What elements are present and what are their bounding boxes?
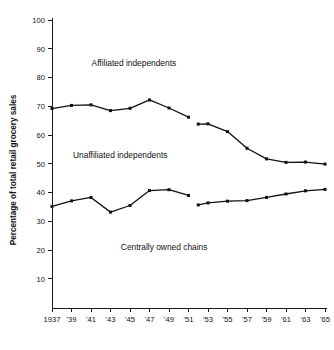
data-point <box>187 116 190 119</box>
y-axis-tick-label: 30 <box>37 217 45 226</box>
data-point <box>90 196 93 199</box>
data-point <box>168 107 171 110</box>
data-point <box>285 193 288 196</box>
data-point <box>148 98 151 101</box>
data-point <box>304 161 307 164</box>
data-point <box>168 188 171 191</box>
y-axis-tick-label: 40 <box>37 188 45 197</box>
y-axis-tick-label: 50 <box>37 160 45 169</box>
data-point <box>129 204 132 207</box>
data-point <box>226 130 229 133</box>
data-point <box>129 107 132 110</box>
data-point <box>226 200 229 203</box>
data-point <box>207 122 210 125</box>
data-point <box>265 157 268 160</box>
x-axis-tick-label: '51 <box>184 315 194 324</box>
x-axis-tick-label: '49 <box>164 315 174 324</box>
x-axis: 1937'39'41'43'45'47'49'51'53'55'57'59'61… <box>44 308 330 324</box>
series-line <box>198 124 325 164</box>
y-axis-title: Percentage of total retail grocery sales <box>9 94 18 245</box>
data-point <box>51 107 54 110</box>
y-axis-tick-label: 70 <box>37 102 45 111</box>
y-axis-tick-label: 90 <box>37 45 45 54</box>
x-axis-tick-label: '63 <box>301 315 311 324</box>
y-axis-tick-label: 100 <box>32 16 45 25</box>
data-point <box>304 189 307 192</box>
annotation-layer: Affiliated independentsCentrally owned c… <box>73 58 207 251</box>
x-axis-tick-label: '39 <box>67 315 77 324</box>
x-axis-tick-label: '41 <box>86 315 96 324</box>
x-axis-tick-label: '45 <box>125 315 135 324</box>
x-axis-tick-label: '53 <box>203 315 213 324</box>
x-axis-tick-label: '59 <box>262 315 272 324</box>
series-label: Centrally owned chains <box>121 242 208 252</box>
data-series <box>51 188 327 214</box>
data-point <box>246 147 249 150</box>
x-axis-tick-label: '57 <box>242 315 252 324</box>
data-point <box>207 201 210 204</box>
y-axis-tick-label: 80 <box>37 73 45 82</box>
series-label: Affiliated independents <box>92 58 177 68</box>
data-point <box>90 103 93 106</box>
data-point <box>324 163 327 166</box>
data-point <box>197 203 200 206</box>
data-point <box>187 194 190 197</box>
line-chart: 102030405060708090100 1937'39'41'43'45'4… <box>0 0 334 350</box>
data-point <box>285 161 288 164</box>
data-point <box>197 123 200 126</box>
y-axis-tick-label: 10 <box>37 275 45 284</box>
x-axis-tick-label: '55 <box>223 315 233 324</box>
data-point <box>265 196 268 199</box>
chart-container: 102030405060708090100 1937'39'41'43'45'4… <box>0 0 334 350</box>
data-point <box>109 211 112 214</box>
data-point <box>70 104 73 107</box>
data-point <box>148 189 151 192</box>
y-axis: 102030405060708090100 <box>32 16 52 308</box>
y-axis-tick-label: 60 <box>37 131 45 140</box>
data-point <box>70 199 73 202</box>
x-axis-tick-label: '65 <box>320 315 330 324</box>
x-axis-tick-label: '43 <box>106 315 116 324</box>
y-axis-tick-label: 20 <box>37 246 45 255</box>
data-point <box>324 188 327 191</box>
data-point <box>109 109 112 112</box>
data-point <box>51 205 54 208</box>
x-axis-tick-label: '47 <box>145 315 155 324</box>
data-point <box>246 199 249 202</box>
x-axis-tick-label: '61 <box>281 315 291 324</box>
x-axis-tick-label: 1937 <box>44 315 61 324</box>
band-annotation-label: Unaffiliated independents <box>73 150 167 160</box>
